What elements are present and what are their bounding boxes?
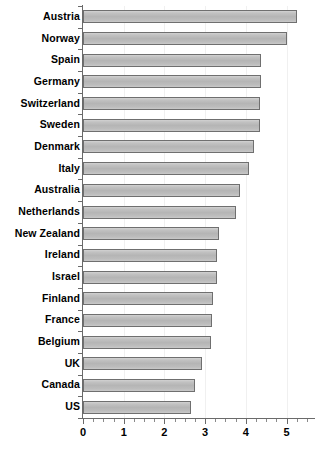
category-label: Italy: [0, 163, 80, 174]
bar: [83, 206, 236, 219]
category-axis-labels: AustriaNorwaySpainGermanySwitzerlandSwed…: [0, 0, 80, 418]
x-axis-minor-tick: [256, 419, 257, 422]
bar: [83, 10, 297, 23]
x-axis-tick-label: 5: [274, 426, 300, 438]
x-axis-tick-label: 1: [111, 426, 137, 438]
y-axis-tick: [78, 28, 82, 29]
bar: [83, 32, 287, 45]
x-axis-minor-tick: [307, 419, 308, 422]
y-axis-tick: [78, 375, 82, 376]
x-axis-tick: [83, 419, 84, 424]
bar: [83, 119, 260, 132]
bar: [83, 379, 195, 392]
y-axis-tick: [78, 201, 82, 202]
x-axis-minor-tick: [195, 419, 196, 422]
x-axis-line: [82, 418, 315, 419]
plot-area: [83, 6, 315, 418]
x-axis-tick-label: 4: [233, 426, 259, 438]
bar: [83, 401, 191, 414]
bar: [83, 336, 211, 349]
x-axis-minor-tick: [266, 419, 267, 422]
bar: [83, 227, 219, 240]
y-axis-tick: [78, 331, 82, 332]
x-axis-tick: [205, 419, 206, 424]
x-axis-minor-tick: [93, 419, 94, 422]
x-axis-minor-tick: [134, 419, 135, 422]
y-axis-tick: [78, 223, 82, 224]
bar: [83, 162, 249, 175]
x-axis-tick: [164, 419, 165, 424]
x-axis-minor-tick: [154, 419, 155, 422]
x-axis-minor-tick: [103, 419, 104, 422]
x-axis-tick-label: 2: [151, 426, 177, 438]
category-label: Germany: [0, 76, 80, 87]
x-axis-minor-tick: [144, 419, 145, 422]
bar: [83, 140, 254, 153]
bar: [83, 357, 202, 370]
x-axis-minor-tick: [114, 419, 115, 422]
y-axis-tick: [78, 353, 82, 354]
y-axis-tick: [78, 310, 82, 311]
category-label: New Zealand: [0, 228, 80, 239]
x-axis-tick: [287, 419, 288, 424]
y-axis-tick: [78, 71, 82, 72]
bar: [83, 75, 261, 88]
y-axis-tick: [78, 396, 82, 397]
category-label: Ireland: [0, 249, 80, 260]
y-axis-line: [82, 5, 83, 419]
x-axis-minor-tick: [297, 419, 298, 422]
x-axis-tick: [124, 419, 125, 424]
x-axis-minor-tick: [236, 419, 237, 422]
y-axis-tick: [78, 136, 82, 137]
bar-chart: AustriaNorwaySpainGermanySwitzerlandSwed…: [0, 0, 322, 450]
bar: [83, 249, 217, 262]
y-axis-tick: [78, 418, 82, 419]
y-axis-tick: [78, 266, 82, 267]
y-axis-tick: [78, 179, 82, 180]
bars-layer: [83, 6, 315, 418]
x-axis-tick-label: 3: [192, 426, 218, 438]
x-axis-tick: [246, 419, 247, 424]
bar: [83, 271, 217, 284]
bar: [83, 292, 213, 305]
bar: [83, 54, 261, 67]
y-axis-tick: [78, 93, 82, 94]
category-label: Israel: [0, 271, 80, 282]
category-label: Sweden: [0, 119, 80, 130]
category-label: Denmark: [0, 141, 80, 152]
y-axis-tick: [78, 114, 82, 115]
y-axis-tick: [78, 49, 82, 50]
category-label: Belgium: [0, 336, 80, 347]
y-axis-tick: [78, 288, 82, 289]
category-label: Netherlands: [0, 206, 80, 217]
category-label: Austria: [0, 11, 80, 22]
category-label: France: [0, 314, 80, 325]
category-label: US: [0, 401, 80, 412]
x-axis-minor-tick: [276, 419, 277, 422]
category-label: Switzerland: [0, 98, 80, 109]
x-axis-tick-label: 0: [70, 426, 96, 438]
y-axis-tick: [78, 6, 82, 7]
category-label: Canada: [0, 379, 80, 390]
bar: [83, 97, 260, 110]
category-label: Norway: [0, 33, 80, 44]
x-axis-minor-tick: [225, 419, 226, 422]
x-axis-minor-tick: [175, 419, 176, 422]
category-label: Australia: [0, 184, 80, 195]
x-axis-minor-tick: [185, 419, 186, 422]
category-label: Spain: [0, 54, 80, 65]
bar: [83, 184, 240, 197]
y-axis-tick: [78, 245, 82, 246]
y-axis-tick: [78, 158, 82, 159]
category-label: UK: [0, 358, 80, 369]
category-label: Finland: [0, 293, 80, 304]
x-axis-minor-tick: [215, 419, 216, 422]
bar: [83, 314, 212, 327]
